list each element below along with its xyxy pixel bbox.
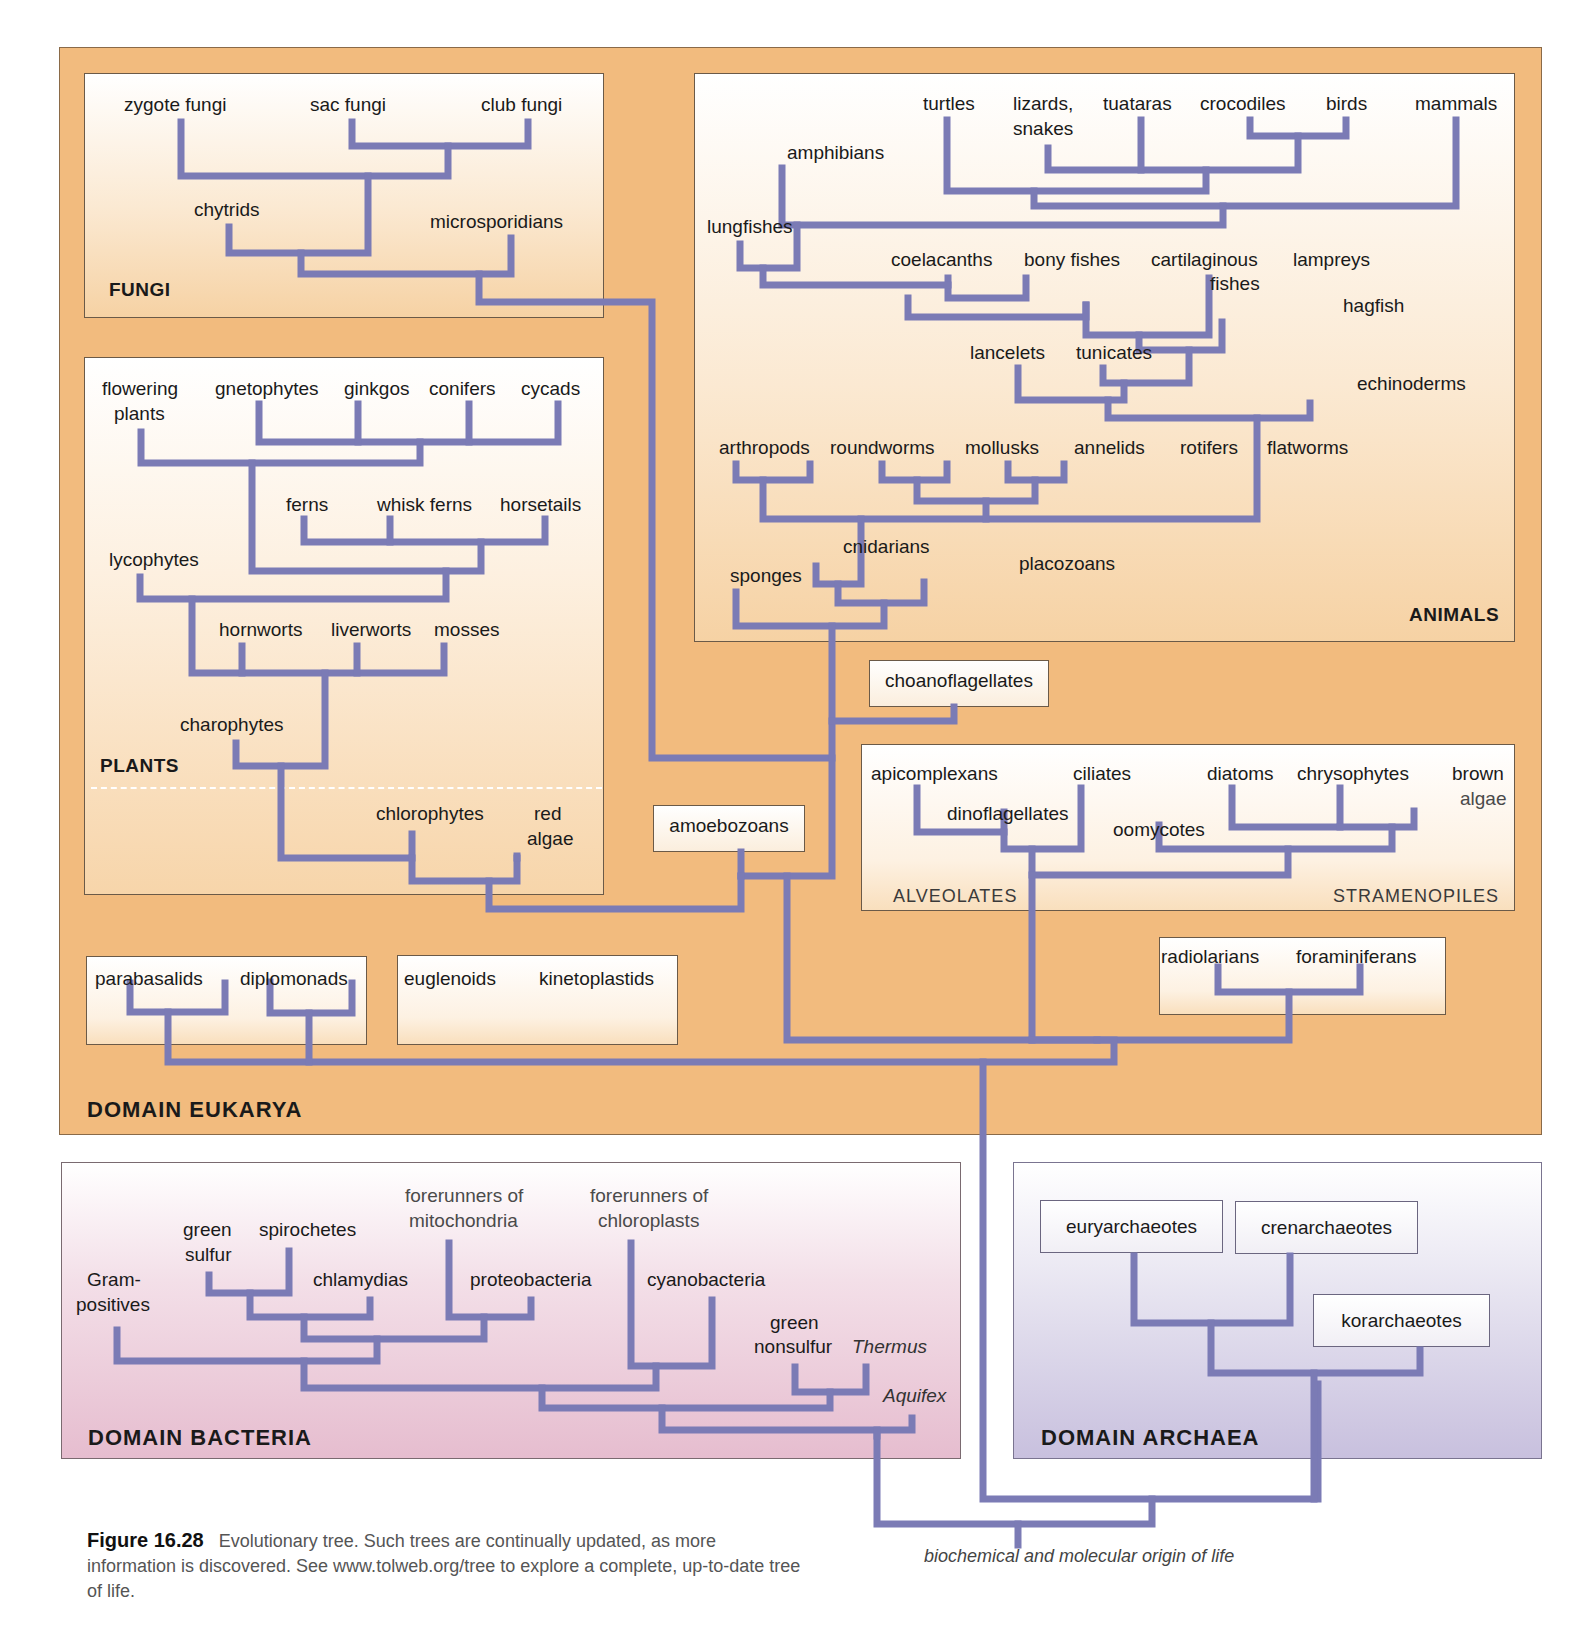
taxon-chlorophytes: chlorophytes (376, 802, 484, 826)
taxon-tunicates: tunicates (1076, 341, 1152, 365)
taxon-chloroplasts: chloroplasts (598, 1209, 699, 1233)
taxon-birds: birds (1326, 92, 1367, 116)
taxon-cnidarians: cnidarians (843, 535, 930, 559)
root-label-origin-of-life: biochemical and molecular origin of life (924, 1546, 1234, 1567)
taxon-mammals: mammals (1415, 92, 1497, 116)
taxon-amphibians: amphibians (787, 141, 884, 165)
plants-boundary-dashed-line (91, 787, 602, 789)
group-label-animals: ANIMALS (1409, 604, 1499, 626)
taxon-turtles: turtles (923, 92, 975, 116)
taxon-oomycotes: oomycotes (1113, 818, 1205, 842)
taxon-euryarchaeotes: euryarchaeotes (1066, 1216, 1197, 1237)
group-label-fungi: FUNGI (109, 279, 171, 301)
figure-number: Figure 16.28 (87, 1529, 204, 1551)
taxon-aquifex: Aquifex (883, 1384, 946, 1408)
taxon-green-sulfur: sulfur (185, 1243, 231, 1267)
taxon-sac-fungi: sac fungi (310, 93, 386, 117)
taxon-lizards: lizards, (1013, 92, 1073, 116)
domain-label-eukarya: DOMAIN EUKARYA (87, 1097, 302, 1123)
taxon-whisk-ferns: whisk ferns (377, 493, 472, 517)
taxon-diatoms: diatoms (1207, 762, 1274, 786)
group-label-alveolates: ALVEOLATES (893, 886, 1017, 907)
taxon-red-algae-red: red (534, 802, 561, 826)
taxon-roundworms: roundworms (830, 436, 935, 460)
taxon-chytrids: chytrids (194, 198, 259, 222)
taxon-horsetails: horsetails (500, 493, 581, 517)
taxon-korarchaeotes: korarchaeotes (1341, 1310, 1461, 1331)
taxon-brown-algae: algae (1460, 787, 1507, 811)
taxon-hornworts: hornworts (219, 618, 302, 642)
taxon-lampreys: lampreys (1293, 248, 1370, 272)
taxon-zygote-fungi: zygote fungi (124, 93, 226, 117)
taxon-placozoans: placozoans (1019, 552, 1115, 576)
taxon-cyanobacteria: cyanobacteria (647, 1268, 765, 1292)
taxon-cartilaginous: cartilaginous (1151, 248, 1258, 272)
taxon-charophytes: charophytes (180, 713, 284, 737)
taxon-ginkgos: ginkgos (344, 377, 410, 401)
taxon-flowering: flowering (102, 377, 178, 401)
choanoflagellates-box: choanoflagellates (869, 660, 1049, 707)
taxon-hagfish: hagfish (1343, 294, 1404, 318)
taxon-bony-fishes: bony fishes (1024, 248, 1120, 272)
taxon-thermus: Thermus (852, 1335, 927, 1359)
korarchaeotes-box: korarchaeotes (1313, 1294, 1490, 1347)
taxon-crenarchaeotes: crenarchaeotes (1261, 1217, 1392, 1238)
taxon-amoebozoans: amoebozoans (669, 815, 788, 836)
taxon-green-sulfur-green: green (183, 1218, 232, 1242)
domain-label-bacteria: DOMAIN BACTERIA (88, 1425, 312, 1451)
taxon-snakes: snakes (1013, 117, 1073, 141)
taxon-club-fungi: club fungi (481, 93, 562, 117)
domain-label-archaea: DOMAIN ARCHAEA (1041, 1425, 1260, 1451)
taxon-green-nonsulfur-green: green (770, 1311, 819, 1335)
taxon-proteobacteria: proteobacteria (470, 1268, 591, 1292)
taxon-chlamydias: chlamydias (313, 1268, 408, 1292)
taxon-dinoflagellates: dinoflagellates (947, 802, 1068, 826)
taxon-ferns: ferns (286, 493, 328, 517)
taxon-green-nonsulfur: nonsulfur (754, 1335, 832, 1359)
group-label-stramenopiles: STRAMENOPILES (1333, 886, 1499, 907)
taxon-tuataras: tuataras (1103, 92, 1172, 116)
taxon-echinoderms: echinoderms (1357, 372, 1466, 396)
taxon-diplomonads: diplomonads (240, 967, 348, 991)
taxon-chrysophytes: chrysophytes (1297, 762, 1409, 786)
taxon-brown: brown (1452, 762, 1504, 786)
taxon-conifers: conifers (429, 377, 496, 401)
taxon-forerunners-chloro: forerunners of (590, 1184, 708, 1208)
taxon-gram: Gram- (87, 1268, 141, 1292)
taxon-forerunners-mito: forerunners of (405, 1184, 523, 1208)
taxon-red-algae: algae (527, 827, 574, 851)
taxon-mosses: mosses (434, 618, 499, 642)
taxon-choanoflagellates: choanoflagellates (885, 670, 1033, 691)
taxon-liverworts: liverworts (331, 618, 411, 642)
euryarchaeotes-box: euryarchaeotes (1040, 1200, 1223, 1253)
taxon-lancelets: lancelets (970, 341, 1045, 365)
taxon-lungfishes: lungfishes (707, 215, 793, 239)
taxon-rotifers: rotifers (1180, 436, 1238, 460)
taxon-sponges: sponges (730, 564, 802, 588)
taxon-cartilaginous-fishes: fishes (1210, 272, 1260, 296)
taxon-kinetoplastids: kinetoplastids (539, 967, 654, 991)
figure-caption: Figure 16.28 Evolutionary tree. Such tre… (87, 1528, 807, 1604)
taxon-gram-positives: positives (76, 1293, 150, 1317)
taxon-flowering-plants: plants (114, 402, 165, 426)
taxon-coelacanths: coelacanths (891, 248, 992, 272)
crenarchaeotes-box: crenarchaeotes (1235, 1201, 1418, 1254)
taxon-mitochondria: mitochondria (409, 1209, 518, 1233)
taxon-microsporidians: microsporidians (430, 210, 563, 234)
taxon-radiolarians: radiolarians (1161, 945, 1259, 969)
taxon-foraminiferans: foraminiferans (1296, 945, 1416, 969)
taxon-cycads: cycads (521, 377, 580, 401)
taxon-ciliates: ciliates (1073, 762, 1131, 786)
taxon-arthropods: arthropods (719, 436, 810, 460)
group-label-plants: PLANTS (100, 755, 179, 777)
taxon-apicomplexans: apicomplexans (871, 762, 998, 786)
taxon-lycophytes: lycophytes (109, 548, 199, 572)
taxon-gnetophytes: gnetophytes (215, 377, 319, 401)
taxon-annelids: annelids (1074, 436, 1145, 460)
taxon-mollusks: mollusks (965, 436, 1039, 460)
amoebozoans-box: amoebozoans (653, 805, 805, 852)
taxon-crocodiles: crocodiles (1200, 92, 1286, 116)
taxon-flatworms: flatworms (1267, 436, 1348, 460)
taxon-euglenoids: euglenoids (404, 967, 496, 991)
taxon-spirochetes: spirochetes (259, 1218, 356, 1242)
